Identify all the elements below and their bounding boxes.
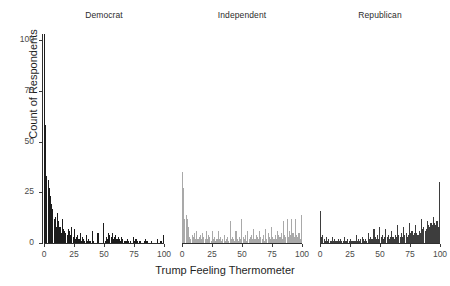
x-tick-label: 100 [429,250,450,259]
x-tick-mark [380,244,381,247]
bar-group [44,34,164,243]
x-tick-label: 75 [261,250,283,259]
x-tick-mark [272,244,273,247]
x-tick-label: 25 [339,250,361,259]
x-axis-label: Trump Feeling Thermometer [0,264,450,276]
x-tick-label: 50 [369,250,391,259]
x-tick-label: 0 [171,250,193,259]
panel-title-democrat: Democrat [44,10,164,24]
panel-title-independent: Independent [182,10,302,24]
bar-group [320,34,440,243]
y-tick-label: 0 [8,238,34,247]
x-tick-mark [320,244,321,247]
histogram-bar [439,182,440,243]
y-axis-spine [42,34,43,244]
histogram-bar [163,235,164,243]
x-tick-mark [44,244,45,247]
panel-independent [182,34,302,243]
x-tick-mark [242,244,243,247]
histogram-bar [103,223,104,243]
x-tick-mark [212,244,213,247]
x-tick-label: 25 [63,250,85,259]
x-tick-label: 25 [201,250,223,259]
x-tick-mark [440,244,441,247]
x-tick-mark [350,244,351,247]
x-tick-mark [410,244,411,247]
faceted-histogram-figure: Democrat Independent Republican Count of… [0,0,450,286]
x-tick-label: 50 [93,250,115,259]
x-tick-label: 75 [399,250,421,259]
panel-title-republican: Republican [320,10,440,24]
x-tick-label: 0 [33,250,55,259]
y-tick-label: 50 [8,137,34,146]
x-tick-label: 0 [309,250,331,259]
x-tick-mark [302,244,303,247]
x-tick-mark [182,244,183,247]
x-tick-mark [164,244,165,247]
x-tick-mark [74,244,75,247]
histogram-bar [97,233,98,243]
panel-democrat [44,34,164,243]
panel-republican [320,34,440,243]
y-tick-label: 100 [8,35,34,44]
x-tick-mark [104,244,105,247]
x-tick-mark [134,244,135,247]
histogram-bar [301,215,302,243]
y-tick-label: 25 [8,187,34,196]
x-tick-label: 75 [123,250,145,259]
x-tick-label: 50 [231,250,253,259]
y-tick-label: 75 [8,86,34,95]
bar-group [182,34,302,243]
